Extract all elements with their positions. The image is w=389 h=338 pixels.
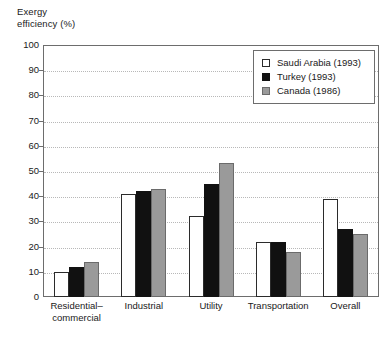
bar: [256, 242, 271, 297]
bar: [353, 234, 368, 297]
bar: [271, 242, 286, 297]
legend-entry: Canada (1986): [262, 84, 367, 98]
legend-entry: Saudi Arabia (1993): [262, 56, 367, 70]
bar: [204, 184, 219, 297]
legend-swatch-icon: [262, 59, 270, 67]
x-axis-tick-labels: Residential– commercialIndustrialUtility…: [43, 300, 379, 334]
legend-label: Saudi Arabia (1993): [277, 58, 361, 68]
legend-swatch-icon: [262, 73, 270, 81]
legend: Saudi Arabia (1993)Turkey (1993)Canada (…: [253, 50, 375, 104]
exergy-efficiency-bar-chart: Exergy efficiency (%) 010203040506070809…: [0, 0, 389, 338]
legend-label: Canada (1986): [277, 86, 340, 96]
bar: [84, 262, 99, 297]
bar: [286, 252, 301, 297]
legend-swatch-icon: [262, 87, 270, 95]
x-tick-label: Overall: [293, 300, 389, 312]
bar: [151, 189, 166, 297]
bar: [189, 216, 204, 297]
bar: [323, 199, 338, 297]
y-axis-title: Exergy efficiency (%): [17, 6, 75, 29]
bar: [136, 191, 151, 297]
bar-group: [54, 45, 99, 297]
legend-entry: Turkey (1993): [262, 70, 367, 84]
bar-group: [121, 45, 166, 297]
bar: [219, 163, 234, 297]
bar: [121, 194, 136, 297]
bar: [338, 229, 353, 297]
legend-label: Turkey (1993): [277, 72, 336, 82]
bar: [54, 272, 69, 297]
bar: [69, 267, 84, 297]
bar-group: [189, 45, 234, 297]
